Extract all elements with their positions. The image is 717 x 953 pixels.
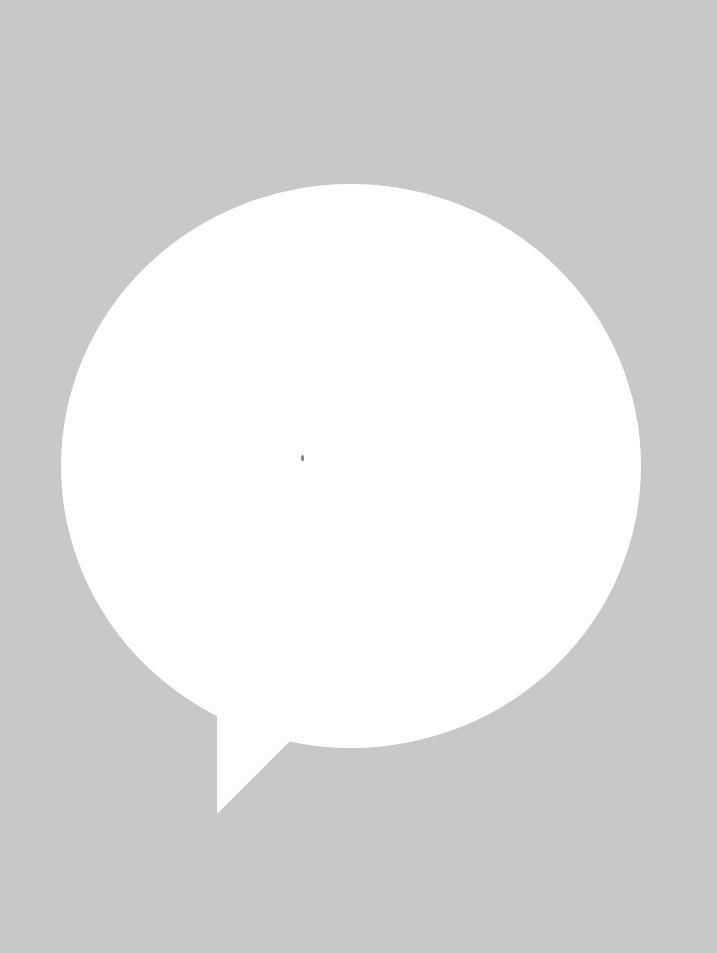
speech-bubble-body — [61, 184, 641, 748]
background: Speech bubble — [0, 0, 717, 953]
speech-bubble-icon — [0, 0, 717, 953]
speck-artifact — [301, 455, 304, 461]
